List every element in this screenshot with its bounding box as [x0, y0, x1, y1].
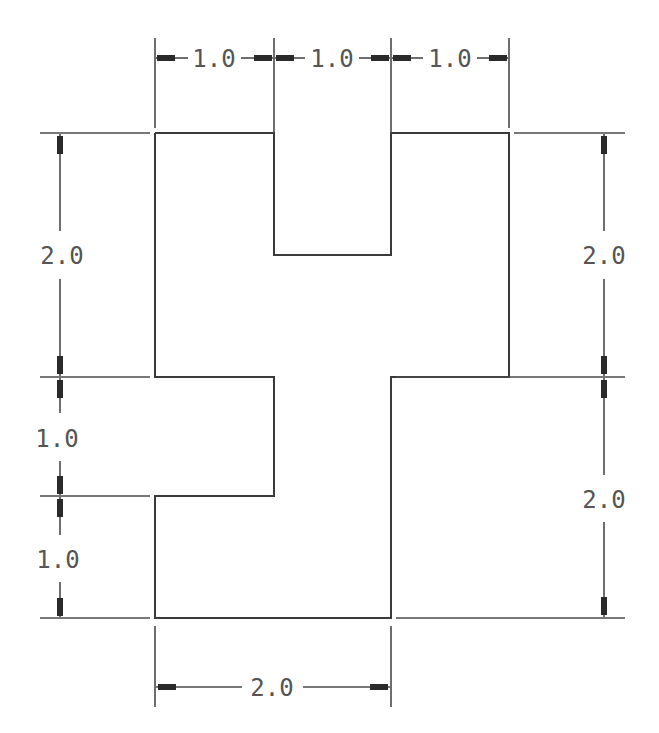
right-dimension-1: 2.0 — [582, 134, 625, 376]
bottom-dim-label-1: 2.0 — [250, 674, 293, 702]
right-dimension-2: 2.0 — [582, 378, 625, 617]
left-dim-label-2: 1.0 — [35, 425, 78, 453]
top-dim-label-2: 1.0 — [310, 45, 353, 73]
right-extension-lines — [396, 133, 625, 618]
bottom-dimension-1: 2.0 — [156, 674, 390, 702]
part-outline — [155, 133, 509, 618]
left-dimension-3: 1.0 — [36, 497, 79, 617]
left-dim-label-3: 1.0 — [36, 546, 79, 574]
right-dim-label-1: 2.0 — [582, 242, 625, 270]
left-dimension-2: 1.0 — [35, 378, 78, 495]
cad-drawing: 1.0 1.0 1.0 2.0 1.0 1.0 — [0, 0, 659, 733]
top-dim-label-1: 1.0 — [192, 45, 235, 73]
top-dimension-3: 1.0 — [392, 45, 508, 73]
top-dimension-1: 1.0 — [156, 45, 273, 73]
left-dim-label-1: 2.0 — [40, 242, 83, 270]
top-dim-label-3: 1.0 — [428, 45, 471, 73]
top-dimension-2: 1.0 — [275, 45, 390, 73]
right-dim-label-2: 2.0 — [582, 486, 625, 514]
left-dimension-1: 2.0 — [40, 134, 83, 376]
